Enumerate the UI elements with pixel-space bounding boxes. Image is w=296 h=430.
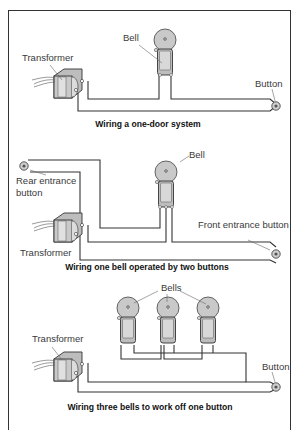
transformer-label: Transformer <box>22 52 73 63</box>
bell-icon-2 <box>157 297 179 343</box>
bell-label: Bell <box>123 32 139 43</box>
button-icon <box>272 102 280 110</box>
caption-one-door: Wiring a one-door system <box>95 119 201 129</box>
button-icon <box>272 383 280 391</box>
transformer-label: Transformer <box>20 247 71 258</box>
rear-entrance-button-icon <box>20 162 28 170</box>
panel-three-bells: Bells Transformer Button Wiring three be… <box>32 282 289 412</box>
bell-icon <box>155 161 177 207</box>
transformer-label: Transformer <box>32 333 83 344</box>
transformer-icon <box>32 213 84 242</box>
front-entrance-label: Front entrance button <box>198 219 289 230</box>
bell-icon <box>154 29 176 75</box>
rear-entrance-label-line1: Rear entrance <box>16 175 76 186</box>
transformer-icon <box>32 352 84 381</box>
button-label: Button <box>255 78 282 89</box>
bell-icon-3 <box>197 297 219 343</box>
caption-three-bells: Wiring three bells to work off one butto… <box>67 402 232 412</box>
front-entrance-button-icon <box>272 250 280 258</box>
caption-two-buttons: Wiring one bell operated by two buttons <box>65 262 229 272</box>
panel-two-buttons: Bell Rear entrance button Front entrance… <box>16 149 289 272</box>
bells-label: Bells <box>161 282 182 293</box>
panel-one-door-system: Bell Transformer Button Wiring a one-doo… <box>22 29 282 129</box>
bell-label: Bell <box>189 149 205 160</box>
transformer-icon <box>32 69 84 98</box>
button-label: Button <box>262 361 289 372</box>
rear-entrance-label-line2: button <box>16 187 42 198</box>
bell-icon-1 <box>117 297 139 343</box>
